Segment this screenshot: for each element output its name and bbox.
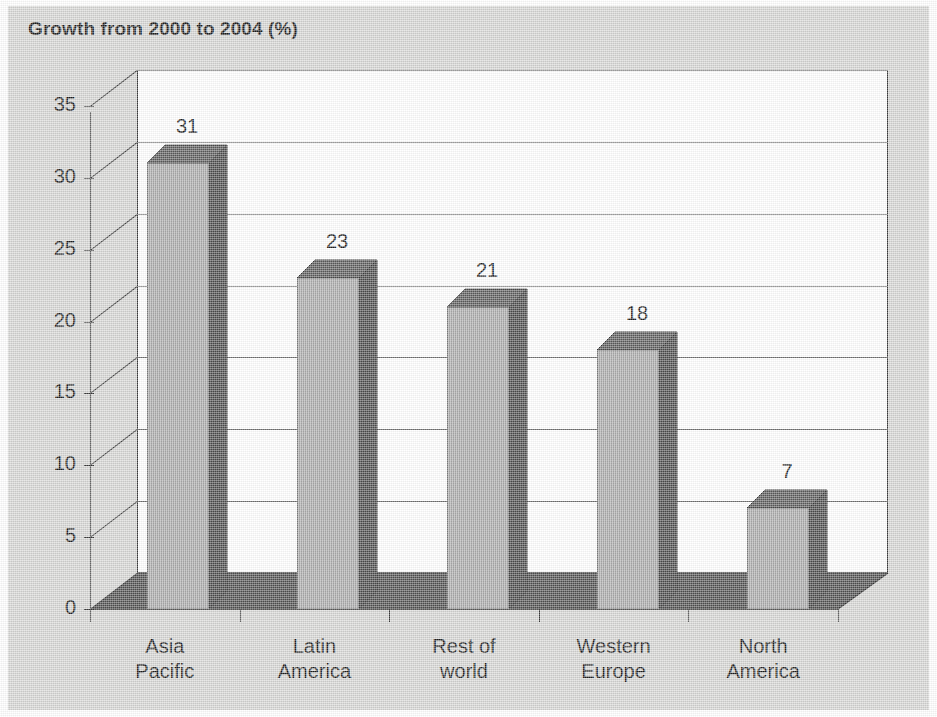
x-axis-label-line2: Europe [534, 659, 694, 684]
x-axis-label-line1: Latin [293, 635, 336, 657]
bar-side-face [359, 260, 379, 609]
x-tick [688, 609, 689, 622]
bar-front-face [747, 508, 809, 609]
x-axis-label-line1: North [739, 635, 788, 657]
bar-side-face [809, 490, 829, 609]
y-axis-label: 35 [30, 93, 76, 116]
gridline [137, 214, 888, 215]
bar-side-face [209, 145, 229, 609]
bar-3[interactable] [447, 289, 527, 609]
x-axis-label: LatinAmerica [234, 634, 394, 684]
gridline [137, 286, 888, 287]
bar-front-face [297, 278, 359, 609]
x-tick [539, 609, 540, 622]
x-tick [240, 609, 241, 622]
bar-front-face [147, 163, 209, 609]
x-axis-label-line1: Asia [145, 635, 184, 657]
x-axis-label-line1: Rest of [432, 635, 495, 657]
y-axis-label: 0 [30, 596, 76, 619]
plot-area: 05101520253035312321187AsiaPacificLatinA… [0, 0, 937, 717]
x-axis-label-line2: Pacific [85, 659, 245, 684]
x-axis-label: AsiaPacific [85, 634, 245, 684]
y-axis-label: 5 [30, 524, 76, 547]
bar-2[interactable] [297, 260, 377, 609]
x-axis-label-line2: America [234, 659, 394, 684]
bar-side-face [509, 289, 529, 609]
x-tick [838, 609, 839, 622]
y-tick [84, 465, 94, 466]
x-axis-label-line2: America [683, 659, 843, 684]
y-tick [84, 393, 94, 394]
y-axis-label: 25 [30, 237, 76, 260]
x-tick [389, 609, 390, 622]
y-tick [84, 537, 94, 538]
bar-value-label: 18 [602, 302, 672, 325]
y-axis-label: 15 [30, 380, 76, 403]
bar-1[interactable] [147, 145, 227, 609]
x-axis-label: NorthAmerica [683, 634, 843, 684]
y-tick [84, 106, 94, 107]
bar-value-label: 31 [152, 115, 222, 138]
bar-front-face [597, 350, 659, 609]
y-axis-label: 20 [30, 309, 76, 332]
bar-value-label: 7 [752, 460, 822, 483]
x-axis-label: WesternEurope [534, 634, 694, 684]
bar-side-face [659, 332, 679, 609]
y-axis-label: 10 [30, 452, 76, 475]
bar-4[interactable] [597, 332, 677, 609]
x-axis-label-line2: world [384, 659, 544, 684]
x-tick [90, 609, 91, 622]
gridline [137, 142, 888, 143]
x-axis-label: Rest ofworld [384, 634, 544, 684]
y-axis-label: 30 [30, 165, 76, 188]
bar-value-label: 23 [302, 230, 372, 253]
gridline [137, 70, 888, 71]
chart-canvas: Growth from 2000 to 2004 (%) 05101520253… [0, 0, 937, 717]
bar-value-label: 21 [452, 259, 522, 282]
y-tick [84, 609, 94, 610]
bar-5[interactable] [747, 490, 827, 609]
x-axis-label-line1: Western [577, 635, 651, 657]
bar-front-face [447, 307, 509, 609]
